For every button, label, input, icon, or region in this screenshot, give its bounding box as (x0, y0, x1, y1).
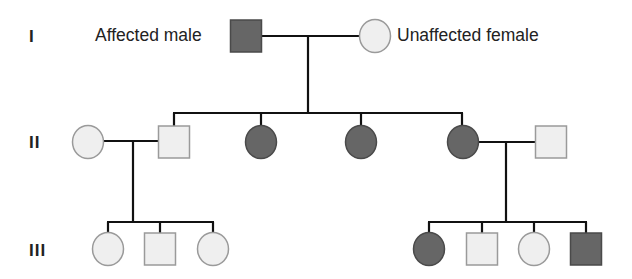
unaffected-male-III-2-square-icon (145, 233, 176, 265)
legend-affected-male: Affected male (95, 27, 202, 45)
affected-female-III-4-circle-icon (414, 233, 445, 266)
unaffected-male-II-6-square-icon (536, 126, 567, 158)
unaffected-female-III-6-circle-icon (519, 233, 550, 266)
generation-label-I: I (29, 28, 35, 45)
legend-unaffected-female: Unaffected female (397, 27, 539, 45)
unaffected-male-II-2-square-icon (159, 126, 190, 158)
affected-female-II-4-circle-icon (346, 126, 377, 159)
generation-label-III: III (29, 242, 46, 259)
affected-male-III-7-square-icon (571, 233, 602, 265)
unaffected-male-III-5-square-icon (467, 233, 498, 265)
unaffected-female-III-1-circle-icon (93, 233, 124, 266)
unaffected-female-I-2-circle-icon (360, 20, 391, 53)
unaffected-female-III-3-circle-icon (198, 233, 229, 266)
pedigree-chart: I II III Affected male Unaffected female (0, 0, 632, 279)
generation-label-II: II (29, 134, 40, 151)
affected-male-I-1-square-icon (231, 20, 262, 52)
affected-female-II-3-circle-icon (246, 126, 277, 159)
affected-female-II-5-circle-icon (448, 126, 479, 159)
unaffected-female-II-1-circle-icon (73, 126, 104, 159)
